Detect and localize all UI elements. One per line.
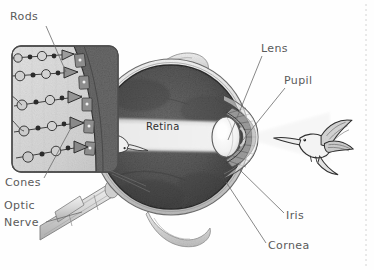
label-optic-nerve-line2: Nerve <box>4 216 39 229</box>
retina-detail-inset <box>12 46 118 172</box>
label-cones: Cones <box>5 176 41 189</box>
lens <box>212 117 240 157</box>
label-rods: Rods <box>10 10 38 23</box>
label-iris: Iris <box>286 209 304 222</box>
label-optic-nerve-line1: Optic <box>4 199 35 212</box>
figure-canvas: Retina <box>0 0 374 270</box>
label-pupil: Pupil <box>284 74 313 87</box>
label-retina: Retina <box>146 121 180 132</box>
eye-diagram-svg: Retina <box>0 0 374 270</box>
label-cornea: Cornea <box>268 239 310 252</box>
label-lens: Lens <box>261 42 288 55</box>
